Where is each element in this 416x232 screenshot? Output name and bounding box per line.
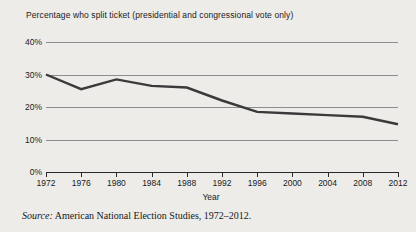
y-tick-label-20: 20% xyxy=(25,102,42,112)
x-tick-mark-1992 xyxy=(222,172,223,177)
x-tick-mark-2008 xyxy=(363,172,364,177)
x-tick-mark-1988 xyxy=(187,172,188,177)
figure: Percentage who split ticket (presidentia… xyxy=(0,0,416,232)
x-tick-mark-2000 xyxy=(292,172,293,177)
x-tick-label-2012: 2012 xyxy=(389,178,408,188)
y-tick-label-30: 30% xyxy=(25,70,42,80)
x-tick-label-1980: 1980 xyxy=(107,178,126,188)
x-tick-label-1992: 1992 xyxy=(213,178,232,188)
x-tick-mark-1980 xyxy=(116,172,117,177)
x-tick-label-1984: 1984 xyxy=(142,178,161,188)
x-tick-mark-2012 xyxy=(398,172,399,177)
x-tick-mark-2004 xyxy=(328,172,329,177)
x-tick-label-2000: 2000 xyxy=(283,178,302,188)
x-axis-title-text: Year xyxy=(202,192,219,202)
source-caption: Source: American National Election Studi… xyxy=(22,210,251,221)
source-label: Source: xyxy=(22,210,53,221)
x-tick-mark-1972 xyxy=(46,172,47,177)
x-tick-label-2004: 2004 xyxy=(318,178,337,188)
source-text: American National Election Studies, 1972… xyxy=(55,210,252,221)
x-tick-mark-1984 xyxy=(152,172,153,177)
chart-title: Percentage who split ticket (presidentia… xyxy=(26,10,293,20)
data-line xyxy=(46,42,398,172)
x-tick-mark-1996 xyxy=(257,172,258,177)
plot-area xyxy=(46,42,398,172)
y-tick-label-10: 10% xyxy=(25,135,42,145)
x-tick-label-2008: 2008 xyxy=(353,178,372,188)
y-tick-label-40: 40% xyxy=(25,37,42,47)
x-tick-label-1996: 1996 xyxy=(248,178,267,188)
x-tick-mark-1976 xyxy=(81,172,82,177)
y-tick-label-0: 0% xyxy=(30,167,42,177)
x-axis-title: Year xyxy=(0,192,416,202)
x-tick-label-1976: 1976 xyxy=(72,178,91,188)
x-tick-label-1988: 1988 xyxy=(177,178,196,188)
x-tick-label-1972: 1972 xyxy=(37,178,56,188)
